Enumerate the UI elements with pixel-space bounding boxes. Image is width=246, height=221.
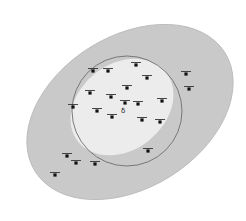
marker-square-icon [53,173,56,176]
marker-square-icon [134,63,137,66]
marker-square-icon [91,69,94,72]
marker-square-icon [145,76,148,79]
marker-square-icon [146,149,149,152]
marker-square-icon [74,161,77,164]
marker-square-icon [125,86,128,89]
marker-square-icon [187,87,190,90]
marker-square-icon [136,102,139,105]
marker-square-icon [71,105,74,108]
marker-square-icon [88,91,91,94]
marker-square-icon [140,118,143,121]
marker-square-icon [65,154,68,157]
marker-square-icon [109,95,112,98]
marker-square-icon [93,162,96,165]
marker-square-icon [106,69,109,72]
marker-square-icon [160,99,163,102]
marker-square-icon [123,101,126,104]
special-symbol: δ [121,107,125,115]
marker-square-icon [184,72,187,75]
venn-diagram: δ [0,0,246,221]
marker-square-icon [158,120,161,123]
marker-square-icon [110,115,113,118]
marker-square-icon [95,109,98,112]
